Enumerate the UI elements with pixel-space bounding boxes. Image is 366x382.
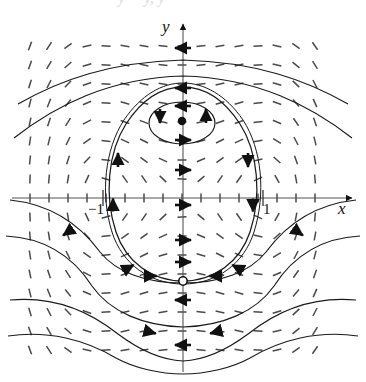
- field-dash: [313, 99, 317, 107]
- field-dash: [313, 289, 317, 297]
- field-dash: [102, 122, 111, 123]
- field-dash: [29, 289, 31, 298]
- field-dash: [235, 139, 243, 143]
- field-dash: [314, 232, 316, 241]
- field-dash: [254, 235, 263, 237]
- field-dash: [254, 331, 263, 332]
- field-dash: [273, 272, 281, 276]
- field-dash: [293, 290, 299, 297]
- phase-portrait-svg: [0, 0, 366, 382]
- field-dash: [47, 308, 51, 316]
- field-dash: [197, 234, 205, 238]
- field-dash: [29, 61, 32, 70]
- field-dash: [65, 309, 71, 315]
- field-dash: [83, 291, 91, 295]
- saddle-critical-point: [179, 277, 187, 285]
- field-dash: [254, 293, 263, 294]
- field-dash: [254, 274, 263, 275]
- field-dash: [235, 233, 242, 238]
- field-dash: [102, 141, 111, 142]
- field-dash: [273, 64, 282, 66]
- field-dash: [29, 270, 31, 279]
- field-dash: [28, 346, 31, 354]
- field-dash: [29, 308, 32, 317]
- field-dash: [140, 233, 147, 238]
- field-dash: [254, 84, 263, 85]
- field-dash: [235, 349, 244, 351]
- field-dash: [83, 64, 92, 67]
- field-dash: [121, 157, 128, 162]
- field-dash: [83, 120, 91, 124]
- trajectory-lower-3: [8, 334, 183, 374]
- field-dash: [140, 45, 149, 47]
- field-dash: [273, 253, 281, 258]
- field-dash: [295, 175, 297, 184]
- field-dash: [315, 175, 316, 184]
- field-dash: [294, 251, 298, 259]
- flow-arrow: [232, 265, 243, 271]
- field-dash: [273, 83, 282, 86]
- field-dash: [235, 292, 244, 294]
- field-dash: [83, 252, 90, 257]
- field-dash: [65, 328, 72, 334]
- field-dash: [197, 83, 206, 84]
- field-dash: [293, 270, 298, 277]
- field-dash: [159, 83, 168, 84]
- field-dash: [48, 137, 50, 146]
- field-dash: [216, 45, 225, 47]
- field-dash: [83, 45, 92, 47]
- field-dash: [218, 175, 223, 182]
- field-dash: [102, 235, 111, 236]
- trajectory-lower-2: [183, 299, 356, 361]
- field-dash: [142, 213, 147, 220]
- field-dash: [140, 311, 149, 313]
- field-dash: [216, 292, 225, 295]
- x-tick-label-minus-one: −1: [88, 201, 104, 218]
- field-dash: [29, 118, 31, 127]
- field-dash: [293, 62, 300, 68]
- flow-arrow: [210, 331, 222, 334]
- field-dash: [142, 175, 147, 182]
- field-dash: [198, 176, 205, 182]
- field-dash: [254, 103, 263, 104]
- field-dash: [66, 270, 71, 278]
- field-dash: [64, 43, 71, 48]
- field-dash: [314, 156, 316, 165]
- field-dash: [47, 61, 52, 69]
- field-dash: [235, 157, 242, 162]
- field-dash: [273, 102, 281, 105]
- field-dash: [216, 233, 223, 238]
- field-dash: [47, 327, 52, 335]
- field-dash: [254, 140, 263, 141]
- field-dash: [314, 251, 316, 260]
- field-dash: [254, 254, 263, 255]
- field-dash: [65, 62, 72, 68]
- field-dash: [140, 253, 148, 257]
- field-dash: [314, 270, 317, 278]
- field-dash: [159, 254, 168, 257]
- field-dash: [102, 159, 111, 160]
- field-dash: [236, 213, 241, 220]
- field-dash: [160, 176, 167, 182]
- field-dash: [28, 42, 31, 50]
- field-dash: [83, 349, 92, 351]
- field-dash: [295, 232, 298, 240]
- field-dash: [254, 350, 263, 351]
- field-dash: [29, 99, 31, 108]
- field-dash: [140, 292, 149, 295]
- field-dash: [197, 254, 206, 256]
- field-dash: [121, 45, 130, 47]
- field-dash: [47, 80, 51, 88]
- field-dash: [292, 347, 299, 352]
- field-dash: [235, 45, 244, 47]
- field-dash: [159, 46, 168, 47]
- phase-portrait-figure: y = y, y =: [0, 0, 366, 382]
- trajectory-lower-1: [10, 299, 183, 361]
- field-dash: [66, 137, 70, 145]
- field-dash: [273, 292, 281, 295]
- field-dash: [160, 214, 167, 220]
- field-dash: [197, 158, 205, 162]
- field-dash: [294, 137, 298, 145]
- field-dash: [273, 330, 282, 332]
- field-dash: [85, 175, 89, 183]
